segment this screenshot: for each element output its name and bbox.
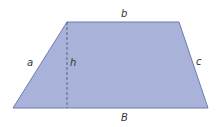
- trapezoid-diagram: b a h c B: [0, 0, 218, 127]
- trapezoid-shape: [13, 22, 208, 108]
- label-top-base: b: [121, 8, 127, 19]
- label-left-side: a: [27, 57, 33, 68]
- label-height: h: [70, 57, 76, 68]
- label-bottom-base: B: [121, 112, 128, 123]
- label-right-side: c: [196, 56, 202, 67]
